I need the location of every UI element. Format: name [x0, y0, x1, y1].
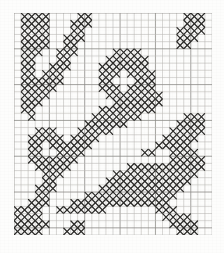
stitch-cell [113, 99, 119, 105]
stitch-cell [57, 63, 63, 69]
stitch-cell [92, 200, 98, 206]
stitch-cell [21, 63, 27, 69]
stitch-cell [135, 85, 141, 91]
stitch-cell [198, 21, 204, 27]
stitch-cell [57, 207, 63, 213]
stitch-cell [28, 85, 34, 91]
stitch-cell [28, 71, 34, 77]
stitch-cell [177, 28, 183, 34]
stitch-cell [99, 207, 105, 213]
stitch-cell [113, 49, 119, 55]
stitch-cell [184, 121, 190, 127]
stitch-cell [135, 164, 141, 170]
stitch-cell [191, 221, 197, 227]
stitch-cell [85, 128, 91, 134]
stitch-cell [28, 207, 34, 213]
stitch-cell [120, 99, 126, 105]
stitch-cell [177, 185, 183, 191]
stitch-cell [142, 200, 148, 206]
stitch-cell [85, 121, 91, 127]
stitch-cell [142, 56, 148, 62]
stitch-cell [198, 114, 204, 120]
stitch-cell [198, 128, 204, 134]
stitch-cell [177, 228, 183, 234]
stitch-cell [149, 192, 155, 198]
stitch-cell [28, 135, 34, 141]
stitch-cell [36, 99, 42, 105]
stitch-cell [163, 171, 169, 177]
stitch-cell [28, 149, 34, 155]
stitch-cell [120, 192, 126, 198]
stitch-cell [177, 164, 183, 170]
stitch-cell [28, 13, 34, 19]
stitch-cell [99, 106, 105, 112]
stitch-cell [113, 178, 119, 184]
stitch-cell [57, 71, 63, 77]
stitch-cell [78, 128, 84, 134]
stitch-cell [106, 128, 112, 134]
stitch-cell [85, 13, 91, 19]
stitch-cell [106, 114, 112, 120]
grid-lines [14, 13, 212, 235]
stitch-cell [177, 35, 183, 41]
stitch-cell [135, 114, 141, 120]
stitch-cell [177, 214, 183, 220]
stitch-cell [127, 192, 133, 198]
stitch-cell [92, 192, 98, 198]
stitch-cell [92, 114, 98, 120]
stitch-cell [36, 13, 42, 19]
stitch-cell [113, 56, 119, 62]
stitch-cell [142, 164, 148, 170]
stitch-cell [21, 49, 27, 55]
stitch-cell [92, 207, 98, 213]
stitch-cell [135, 92, 141, 98]
stitch-cell [64, 35, 70, 41]
stitch-cell [135, 178, 141, 184]
stitch-cell [184, 149, 190, 155]
stitch-cell [21, 207, 27, 213]
stitch-cell [191, 35, 197, 41]
stitch-cell [156, 207, 162, 213]
stitch-cell [163, 192, 169, 198]
stitch-cell [21, 99, 27, 105]
stitch-cell [106, 106, 112, 112]
stitch-cell [113, 200, 119, 206]
stitch-cell [43, 185, 49, 191]
stitch-cell [156, 164, 162, 170]
stitch-cell [99, 192, 105, 198]
stitch-cell [106, 178, 112, 184]
stitch-cell [184, 135, 190, 141]
stitch-cell [191, 28, 197, 34]
stitch-cell [191, 157, 197, 163]
stitch-cell [135, 78, 141, 84]
stitch-cell [120, 56, 126, 62]
stitch-cell [50, 71, 56, 77]
stitch-cell [57, 135, 63, 141]
stitch-cell [36, 49, 42, 55]
stitch-cell [28, 21, 34, 27]
stitch-cell [177, 135, 183, 141]
stitch-cell [198, 164, 204, 170]
stitch-cell [43, 164, 49, 170]
stitch-cell [184, 157, 190, 163]
stitch-cell [184, 171, 190, 177]
stitch-cell [85, 192, 91, 198]
stitch-cell [21, 28, 27, 34]
stitch-cell [198, 157, 204, 163]
stitch-cell [14, 207, 20, 213]
stitch-cell [142, 99, 148, 105]
stitch-cell [127, 106, 133, 112]
stitch-cell [14, 221, 20, 227]
stitch-cell [57, 149, 63, 155]
pattern-chart-page [0, 0, 224, 253]
stitch-cell [156, 142, 162, 148]
stitch-cell [120, 178, 126, 184]
stitch-cell [21, 13, 27, 19]
stitch-cell [64, 207, 70, 213]
stitch-cell [43, 135, 49, 141]
stitch-cell [21, 92, 27, 98]
stitch-cell [135, 200, 141, 206]
stitch-cell [184, 142, 190, 148]
stitch-cell [21, 56, 27, 62]
stitch-cell [163, 214, 169, 220]
